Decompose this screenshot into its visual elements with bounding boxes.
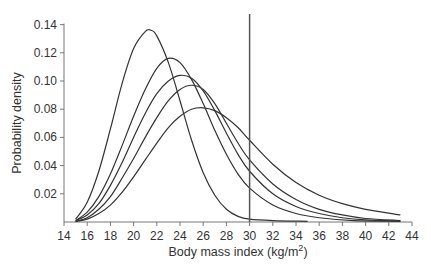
y-axis: 0.020.040.060.080.100.120.14 [34,18,64,222]
x-tick-label: 38 [336,229,350,243]
y-tick-label: 0.02 [34,187,58,201]
bmi-density-chart: 0.020.040.060.080.100.120.14 14161820222… [0,0,431,272]
y-tick-label: 0.14 [34,18,58,32]
curve-3 [76,75,401,221]
y-tick-label: 0.06 [34,130,58,144]
x-tick-label: 30 [243,229,257,243]
y-tick-label: 0.08 [34,102,58,116]
x-tick-label: 36 [313,229,327,243]
x-tick-label: 22 [150,229,164,243]
curve-5 [76,108,401,222]
x-tick-label: 32 [266,229,280,243]
x-tick-label: 44 [405,229,419,243]
x-tick-label: 14 [57,229,71,243]
x-tick-label: 28 [220,229,234,243]
density-curves [76,30,401,222]
x-tick-label: 42 [382,229,396,243]
curve-1 [76,30,308,222]
x-tick-label: 40 [359,229,373,243]
x-tick-label: 26 [197,229,211,243]
x-tick-label: 16 [81,229,95,243]
x-axis: 14161820222426283032343638404244 [57,222,419,243]
curve-2 [76,58,401,221]
y-axis-title: Probability density [10,72,24,174]
y-tick-label: 0.10 [34,74,58,88]
y-tick-label: 0.04 [34,159,58,173]
x-tick-label: 24 [173,229,187,243]
x-axis-title: Body mass index (kg/m2) [168,243,307,259]
x-tick-label: 34 [289,229,303,243]
x-tick-label: 20 [127,229,141,243]
x-tick-label: 18 [104,229,118,243]
y-tick-label: 0.12 [34,46,58,60]
